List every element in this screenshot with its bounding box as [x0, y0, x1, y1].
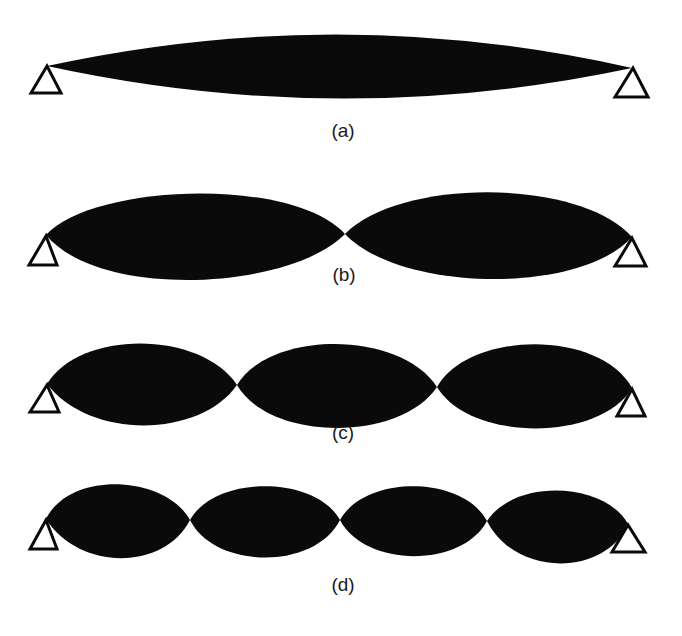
panel-d-mode-shape	[30, 484, 645, 563]
panel-a-label: (a)	[331, 120, 354, 142]
panel-c-label: (c)	[332, 422, 354, 444]
panel-c-mode-shape	[30, 344, 645, 429]
lobe	[345, 192, 632, 279]
pin-support-right-icon	[615, 68, 648, 97]
lobe	[237, 344, 437, 428]
lobe	[190, 486, 340, 557]
lobe	[46, 194, 345, 280]
lobe	[437, 344, 632, 428]
lobe	[47, 344, 237, 426]
lobe	[340, 486, 487, 556]
lobe	[46, 484, 190, 558]
pin-support-left-icon	[31, 66, 61, 93]
panel-a-mode-shape	[31, 34, 648, 98]
lobe	[47, 34, 632, 98]
panel-b-label: (b)	[332, 264, 355, 286]
panel-d-label: (d)	[331, 574, 354, 596]
mode-shapes-diagram	[0, 0, 682, 636]
lobe	[487, 491, 628, 564]
